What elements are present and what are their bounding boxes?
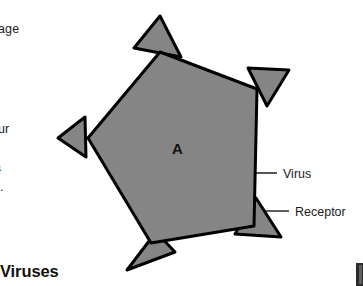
callout-label-virus: Virus <box>283 167 311 181</box>
page-corner-marker-highlight <box>359 265 362 284</box>
section-heading: Viruses <box>0 262 59 281</box>
receptor-spike-left <box>58 117 86 157</box>
capsid-label-a: A <box>172 140 183 157</box>
callout-label-receptor: Receptor <box>295 205 346 219</box>
receptor-spike-top <box>134 16 181 57</box>
virus-receptor-diagram: A Virus Receptor <box>0 0 363 286</box>
figure-page: page our a e. A Virus Receptor Viruses <box>0 0 363 286</box>
